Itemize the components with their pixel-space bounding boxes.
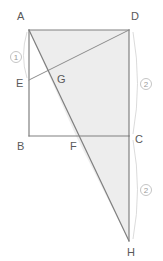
vertex-label-C: C [135,133,143,145]
vertex-label-E: E [16,77,23,89]
vertex-label-G: G [57,73,66,85]
vertex-label-B: B [17,140,24,152]
vertex-label-F: F [70,140,77,152]
ratio-arc-2a [133,32,138,134]
ratio-mark-1-label: 1 [14,53,19,62]
vertex-label-H: H [127,246,135,258]
geometry-figure: 1 2 2 A D E G B F C H [0,0,163,261]
ratio-mark-2a-label: 2 [144,80,149,89]
ratio-arc-1 [24,32,28,78]
ratio-arc-2b [133,140,138,239]
ratio-mark-2b: 2 [141,185,152,196]
ratio-mark-2b-label: 2 [144,186,149,195]
ratio-mark-1: 1 [11,52,22,63]
shaded-region-upper [29,30,129,136]
vertex-label-A: A [17,10,25,22]
geometry-canvas: 1 2 2 A D E G B F C H [0,0,163,261]
ratio-mark-2a: 2 [141,79,152,90]
vertex-label-D: D [131,10,139,22]
